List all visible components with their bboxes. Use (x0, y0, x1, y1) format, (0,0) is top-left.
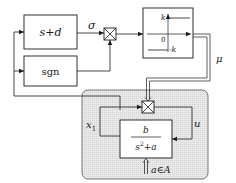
relay-zero-label: 0 (161, 36, 165, 44)
relay-upper-label: k (161, 13, 166, 22)
sign-label: sgn (42, 66, 61, 77)
multiplier-1 (104, 28, 116, 40)
u-label: u (194, 118, 200, 129)
relay-block[interactable]: k 0 -k (143, 8, 193, 58)
block-diagram: s+d sgn σ k 0 -k μ (0, 0, 236, 183)
plant-block[interactable]: b s2+a (120, 120, 172, 158)
sign-signal-line (77, 40, 110, 71)
sign-block[interactable]: sgn (24, 56, 77, 86)
sigma-label: σ (88, 19, 96, 32)
plant-denominator: s2+a (135, 140, 156, 152)
plant-numerator: b (143, 125, 149, 135)
mu-label: μ (216, 53, 223, 64)
multiplier-2 (142, 101, 154, 113)
sliding-surface-block[interactable]: s+d (24, 15, 77, 49)
sliding-surface-label: s+d (40, 26, 62, 39)
parameter-label: a∈A (151, 164, 171, 175)
relay-lower-label: -k (169, 45, 177, 54)
